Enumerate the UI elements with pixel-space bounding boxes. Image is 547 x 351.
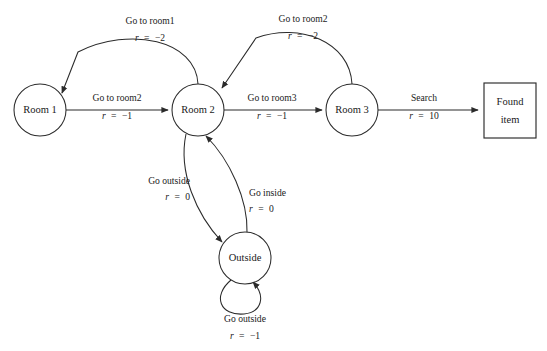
edge-reward-room3-to-found: r = 10 (409, 110, 439, 121)
reward-value: −2 (155, 32, 165, 43)
edge-room2-to-outside: Go outside r = 0 (148, 134, 222, 242)
edge-curve (206, 136, 247, 232)
node-room2[interactable]: Room 2 (172, 84, 224, 136)
edge-reward-room2-to-outside: r = 0 (165, 191, 190, 202)
edge-room3-to-found: Search r = 10 (378, 92, 478, 121)
edge-reward-room3-to-room2: r = −2 (288, 30, 318, 41)
reward-eq: = (239, 330, 244, 341)
edge-reward-room2-to-room3: r = −1 (257, 110, 287, 121)
reward-value: 0 (269, 203, 274, 214)
node-room1[interactable]: Room 1 (14, 84, 66, 136)
node-label-room2: Room 2 (181, 104, 215, 115)
edge-room1-to-room2: Go to room2 r = −1 (66, 92, 168, 121)
edge-reward-room2-to-room1: r = −2 (135, 32, 165, 43)
node-room3[interactable]: Room 3 (326, 84, 378, 136)
edge-label-room1-to-room2: Go to room2 (92, 92, 141, 103)
reward-value: −1 (277, 110, 287, 121)
node-label-found-item-line2: item (501, 114, 520, 125)
edge-self-loop (220, 280, 260, 314)
reward-eq: = (174, 191, 179, 202)
edge-reward-room1-to-room2: r = −1 (102, 110, 132, 121)
reward-var: r (409, 110, 413, 121)
reward-eq: = (266, 110, 271, 121)
edge-room3-to-room2: Go to room2 r = −2 (222, 13, 352, 88)
state-diagram: Go to room2 r = −1 Go to room1 r = −2 Go… (0, 0, 547, 351)
node-found-item[interactable]: Found item (484, 83, 536, 138)
node-outside[interactable]: Outside (219, 232, 271, 284)
edge-label-room2-to-room3: Go to room3 (247, 92, 296, 103)
reward-var: r (102, 110, 106, 121)
reward-var: r (249, 203, 253, 214)
reward-var: r (230, 330, 234, 341)
edge-label-outside-to-room2: Go inside (249, 187, 286, 198)
edge-outside-self-loop: Go outside r = −1 (220, 280, 265, 341)
node-label-room3: Room 3 (335, 104, 369, 115)
edge-curve (184, 134, 222, 242)
reward-value: −1 (250, 330, 260, 341)
reward-value: −2 (308, 30, 318, 41)
edge-reward-outside-to-room2: r = 0 (249, 203, 274, 214)
reward-eq: = (418, 110, 423, 121)
node-label-found-item-line1: Found (497, 96, 525, 107)
reward-var: r (165, 191, 169, 202)
node-label-outside: Outside (229, 252, 262, 263)
reward-var: r (135, 32, 139, 43)
node-rect[interactable] (484, 83, 536, 138)
reward-value: 0 (185, 191, 190, 202)
diagram-canvas: Go to room2 r = −1 Go to room1 r = −2 Go… (0, 0, 547, 351)
edge-curve (62, 39, 198, 93)
edge-label-outside-self-loop: Go outside (224, 313, 266, 324)
reward-eq: = (258, 203, 263, 214)
edge-label-room2-to-room1: Go to room1 (125, 15, 174, 26)
reward-value: −1 (122, 110, 132, 121)
node-label-room1: Room 1 (23, 104, 57, 115)
edge-label-room3-to-found: Search (411, 92, 437, 103)
edge-room2-to-room3: Go to room3 r = −1 (224, 92, 322, 121)
reward-eq: = (111, 110, 116, 121)
edge-room2-to-room1: Go to room1 r = −2 (62, 15, 198, 93)
edge-label-room3-to-room2: Go to room2 (278, 13, 327, 24)
reward-eq: = (144, 32, 149, 43)
edge-label-room2-to-outside: Go outside (148, 175, 190, 186)
reward-var: r (257, 110, 261, 121)
reward-eq: = (297, 30, 302, 41)
edge-outside-to-room2: Go inside r = 0 (206, 136, 286, 232)
reward-value: 10 (429, 110, 439, 121)
reward-var: r (288, 30, 292, 41)
edge-reward-outside-self-loop: r = −1 (230, 330, 260, 341)
